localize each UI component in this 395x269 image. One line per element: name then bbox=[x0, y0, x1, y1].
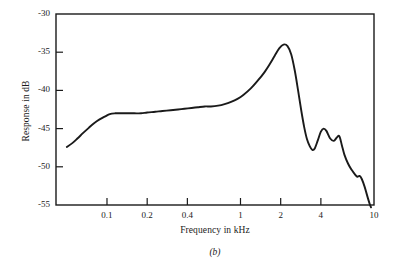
x-tick-label: 0.4 bbox=[167, 210, 207, 220]
x-axis-title: Frequency in kHz bbox=[56, 225, 374, 235]
y-tick-label: -35 bbox=[10, 46, 50, 56]
y-tick-label: -30 bbox=[10, 8, 50, 18]
figure-panel: Response in dB Frequency in kHz (b) -30-… bbox=[0, 0, 395, 269]
x-tick-label: 0.2 bbox=[127, 210, 167, 220]
plot-frame bbox=[56, 14, 374, 205]
x-tick-label: 1 bbox=[220, 210, 260, 220]
y-tick-label: -40 bbox=[10, 84, 50, 94]
figure-caption: (b) bbox=[56, 247, 374, 257]
y-tick-label: -45 bbox=[10, 123, 50, 133]
x-tick-label: 0.1 bbox=[87, 210, 127, 220]
y-tick-label: -55 bbox=[10, 199, 50, 209]
x-tick-label: 2 bbox=[261, 210, 301, 220]
data-curve bbox=[67, 44, 371, 207]
x-tick-label: 10 bbox=[354, 210, 394, 220]
x-tick-label: 4 bbox=[301, 210, 341, 220]
y-tick-label: -50 bbox=[10, 161, 50, 171]
tick-marks bbox=[56, 52, 321, 205]
